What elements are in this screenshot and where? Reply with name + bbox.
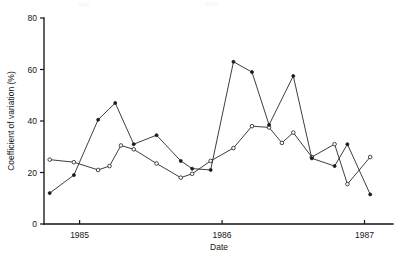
data-point	[108, 164, 112, 168]
series-1	[48, 124, 372, 186]
data-point	[132, 143, 135, 146]
data-point	[292, 74, 295, 77]
line-chart-svg: 020406080 198519861987 Date Coefficient …	[0, 0, 414, 263]
data-point	[232, 60, 235, 63]
data-point	[250, 124, 254, 128]
x-tick-label: 1986	[213, 230, 232, 240]
data-point	[250, 71, 253, 74]
data-point	[97, 118, 100, 121]
data-point	[190, 172, 194, 176]
data-point	[346, 182, 350, 186]
data-point	[333, 142, 337, 146]
data-point	[155, 134, 158, 137]
y-tick-label: 80	[28, 13, 38, 23]
data-point	[232, 146, 236, 150]
data-point	[346, 143, 349, 146]
data-point	[268, 123, 271, 126]
x-axis-tick-labels: 198519861987	[70, 230, 374, 240]
data-point	[179, 159, 182, 162]
data-point	[72, 174, 75, 177]
data-point	[191, 167, 194, 170]
y-tick-label: 40	[28, 116, 38, 126]
y-tick-label: 20	[28, 168, 38, 178]
y-axis-title: Coefficient of variation (%)	[6, 71, 16, 171]
y-tick-label: 0	[32, 219, 37, 229]
data-point	[114, 101, 117, 104]
data-point	[179, 176, 183, 180]
data-point	[119, 144, 123, 148]
data-point	[368, 155, 372, 159]
data-point	[132, 148, 136, 152]
data-series-layer	[48, 60, 372, 196]
series-line	[50, 126, 371, 184]
data-point	[280, 141, 284, 145]
chart-figure: 020406080 198519861987 Date Coefficient …	[0, 0, 414, 263]
data-point	[291, 131, 295, 135]
x-tick-label: 1985	[70, 230, 89, 240]
data-point	[209, 168, 212, 171]
data-point	[72, 160, 76, 164]
x-axis-title: Date	[210, 242, 228, 252]
data-point	[333, 165, 336, 168]
data-point	[155, 162, 159, 166]
data-point	[96, 168, 100, 172]
y-axis-tick-labels: 020406080	[28, 13, 38, 229]
data-point	[369, 193, 372, 196]
x-tick-label: 1987	[355, 230, 374, 240]
series-line	[50, 62, 371, 195]
data-point	[310, 157, 313, 160]
series-2	[48, 60, 372, 196]
data-point	[48, 192, 51, 195]
data-point	[48, 158, 52, 162]
y-tick-label: 60	[28, 65, 38, 75]
